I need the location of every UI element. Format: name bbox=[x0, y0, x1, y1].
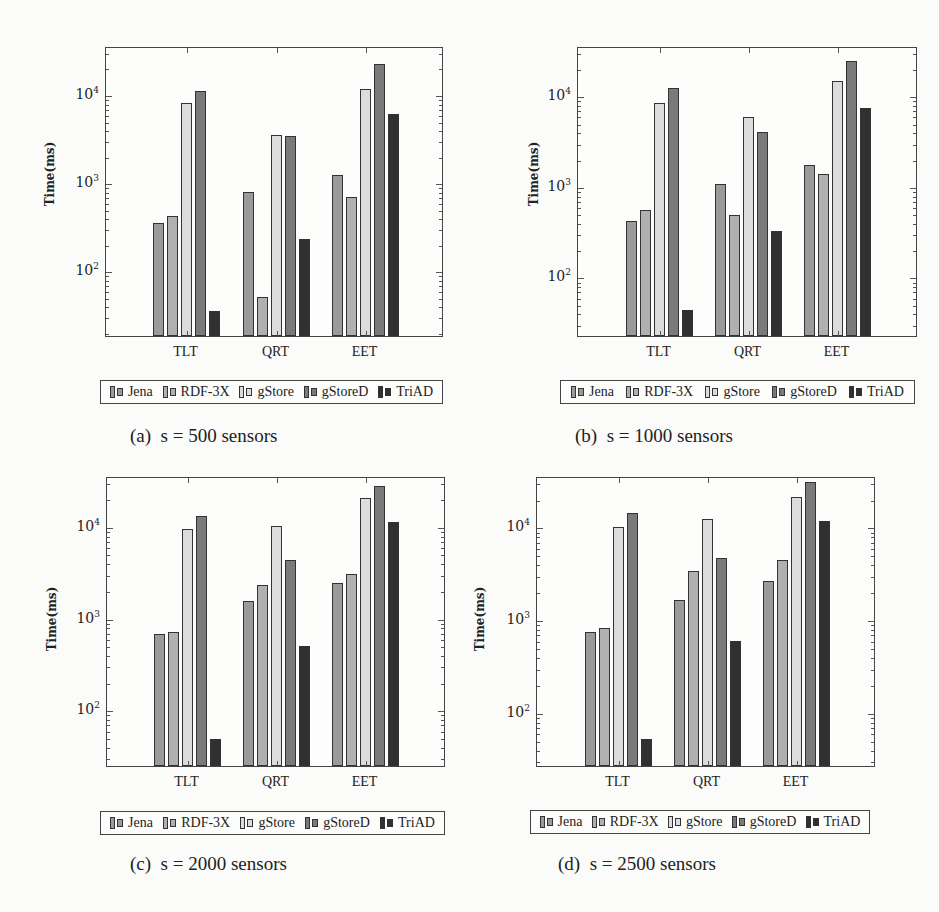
legend-swatch-icon bbox=[378, 386, 383, 398]
minor-tick bbox=[107, 684, 110, 685]
bar-gstore-qrt bbox=[271, 135, 282, 336]
legend-item-triad: TriAD bbox=[849, 384, 904, 400]
legend-label: RDF-3X bbox=[181, 815, 230, 831]
legend-swatch-icon bbox=[163, 386, 168, 398]
bar-triad-tlt bbox=[641, 739, 652, 766]
minor-tick bbox=[537, 751, 540, 752]
bar-triad-qrt bbox=[771, 231, 782, 336]
tick-base: 10 bbox=[76, 701, 94, 717]
legend-label: Jena bbox=[589, 384, 614, 400]
minor-tick bbox=[578, 70, 581, 71]
tick-base: 10 bbox=[547, 268, 565, 284]
minor-tick bbox=[913, 197, 916, 198]
minor-tick bbox=[441, 684, 444, 685]
legend-swatch-icon bbox=[578, 388, 584, 396]
bar-gstored-qrt bbox=[285, 136, 296, 336]
bar-rdf-3x-qrt bbox=[688, 571, 699, 766]
legend-label: RDF-3X bbox=[181, 384, 230, 400]
minor-tick bbox=[578, 306, 581, 307]
minor-tick bbox=[871, 723, 874, 724]
minor-tick bbox=[106, 193, 109, 194]
minor-tick bbox=[537, 762, 540, 763]
minor-tick bbox=[913, 251, 916, 252]
major-tick bbox=[107, 711, 113, 712]
minor-tick bbox=[439, 211, 442, 212]
minor-tick bbox=[106, 292, 109, 293]
major-tick bbox=[106, 184, 112, 185]
minor-tick bbox=[106, 198, 109, 199]
minor-tick bbox=[441, 715, 444, 716]
minor-tick bbox=[537, 723, 540, 724]
x-tick bbox=[797, 478, 798, 483]
bar-rdf-3x-tlt bbox=[640, 210, 651, 336]
legend-label: gStoreD bbox=[790, 384, 837, 400]
minor-tick bbox=[537, 635, 540, 636]
x-tick bbox=[277, 331, 278, 336]
legend-swatch-icon bbox=[380, 817, 385, 829]
minor-tick bbox=[537, 565, 540, 566]
minor-tick bbox=[871, 593, 874, 594]
bar-triad-eet bbox=[860, 108, 871, 336]
bar-gstore-tlt bbox=[654, 103, 665, 336]
major-tick bbox=[868, 621, 874, 622]
minor-tick bbox=[537, 543, 540, 544]
legend-item-rdf-3x: RDF-3X bbox=[163, 815, 230, 831]
minor-tick bbox=[439, 318, 442, 319]
bar-rdf-3x-eet bbox=[346, 197, 357, 336]
bar-rdf-3x-qrt bbox=[257, 297, 268, 336]
major-tick bbox=[910, 278, 916, 279]
minor-tick bbox=[439, 54, 442, 55]
y-tick-label: 104 bbox=[490, 517, 530, 534]
minor-tick bbox=[913, 161, 916, 162]
legend-swatch-icon bbox=[312, 819, 318, 827]
tick-exponent: 3 bbox=[565, 177, 571, 187]
minor-tick bbox=[871, 649, 874, 650]
minor-tick bbox=[537, 625, 540, 626]
minor-tick bbox=[871, 658, 874, 659]
x-tick bbox=[749, 48, 750, 53]
bar-jena-qrt bbox=[715, 184, 726, 336]
minor-tick bbox=[107, 739, 110, 740]
bar-triad-tlt bbox=[209, 311, 220, 336]
minor-tick bbox=[537, 718, 540, 719]
tick-exponent: 3 bbox=[94, 609, 100, 619]
tick-exponent: 2 bbox=[565, 267, 571, 277]
tick-base: 10 bbox=[506, 518, 524, 534]
minor-tick bbox=[441, 624, 444, 625]
minor-tick bbox=[439, 193, 442, 194]
minor-tick bbox=[578, 224, 581, 225]
minor-tick bbox=[107, 564, 110, 565]
minor-tick bbox=[107, 732, 110, 733]
minor-tick bbox=[441, 667, 444, 668]
minor-tick bbox=[537, 728, 540, 729]
x-category-label: EET bbox=[352, 344, 378, 360]
legend-swatch-icon bbox=[385, 388, 391, 396]
minor-tick bbox=[107, 634, 110, 635]
minor-tick bbox=[441, 634, 444, 635]
bar-gstored-tlt bbox=[196, 516, 207, 766]
tick-exponent: 4 bbox=[94, 517, 100, 527]
minor-tick bbox=[913, 101, 916, 102]
legend-item-gstored: gStoreD bbox=[305, 815, 370, 831]
major-tick bbox=[107, 620, 113, 621]
bar-gstore-qrt bbox=[743, 117, 754, 336]
legend-swatch-icon bbox=[626, 386, 631, 398]
minor-tick bbox=[578, 215, 581, 216]
minor-tick bbox=[441, 732, 444, 733]
minor-tick bbox=[106, 123, 109, 124]
minor-tick bbox=[106, 100, 109, 101]
minor-tick bbox=[107, 656, 110, 657]
minor-tick bbox=[106, 299, 109, 300]
minor-tick bbox=[871, 630, 874, 631]
tick-base: 10 bbox=[547, 178, 565, 194]
legend-label: gStore bbox=[257, 384, 294, 400]
minor-tick bbox=[441, 542, 444, 543]
minor-tick bbox=[106, 105, 109, 106]
minor-tick bbox=[106, 69, 109, 70]
x-tick bbox=[619, 761, 620, 766]
minor-tick bbox=[913, 192, 916, 193]
legend-item-rdf-3x: RDF-3X bbox=[626, 384, 693, 400]
minor-tick bbox=[578, 117, 581, 118]
minor-tick bbox=[106, 307, 109, 308]
bar-jena-eet bbox=[332, 175, 343, 336]
